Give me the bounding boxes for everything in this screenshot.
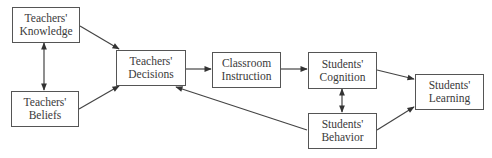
node-label-line1: Classroom: [222, 57, 271, 70]
edge-behavior-decisions: [176, 87, 307, 130]
node-label-line1: Students': [322, 118, 364, 131]
node-students-learning: Students' Learning: [415, 74, 484, 110]
node-label-line2: Cognition: [319, 71, 365, 84]
edge-knowledge-decisions: [80, 26, 119, 49]
node-label-line1: Teachers': [24, 96, 67, 109]
edge-beliefs-decisions: [79, 86, 119, 109]
node-label-line2: Beliefs: [29, 109, 62, 122]
node-classroom-instruction: Classroom Instruction: [212, 52, 281, 88]
edge-cognition-learning: [377, 70, 414, 79]
node-label-line1: Teachers': [25, 12, 68, 25]
node-label-line2: Instruction: [222, 70, 272, 83]
node-label-line2: Behavior: [321, 131, 363, 144]
teaching-learning-diagram: Teachers' Knowledge Teachers' Beliefs Te…: [0, 0, 492, 158]
node-label-line1: Students': [429, 79, 471, 92]
node-label-line2: Knowledge: [19, 25, 72, 38]
node-label-line2: Learning: [429, 92, 471, 105]
node-teachers-beliefs: Teachers' Beliefs: [11, 91, 79, 127]
node-teachers-knowledge: Teachers' Knowledge: [12, 7, 80, 43]
node-label-line2: Decisions: [128, 68, 173, 81]
node-students-behavior: Students' Behavior: [308, 113, 377, 149]
node-label-line1: Students': [322, 58, 364, 71]
edge-behavior-learning: [377, 107, 414, 130]
node-students-cognition: Students' Cognition: [308, 52, 377, 89]
node-label-line1: Teachers': [130, 55, 173, 68]
node-teachers-decisions: Teachers' Decisions: [116, 50, 186, 86]
